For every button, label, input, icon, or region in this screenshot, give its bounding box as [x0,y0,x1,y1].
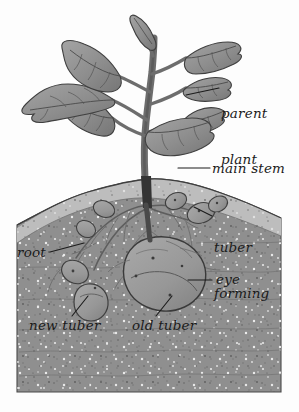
tuber-eye-dot [169,294,172,297]
new-tuber-2 [74,284,108,321]
label-root: root [17,245,46,260]
label-main-stem: main stem [212,161,285,176]
label-new-tuber: new tuber [29,318,101,333]
label-tuber-forming: tuber forming [214,210,269,316]
label-eye: eye [216,272,240,287]
potato-plant-diagram [0,0,299,412]
tuber-eye-dot [94,287,97,290]
tuber-eye-dot [151,256,154,259]
tuber-eye-dot [181,265,184,268]
label-tuber-forming-line1: tuber [214,240,269,255]
tuber-eye-dot [174,199,176,201]
tuber-eye-dot [72,270,75,273]
old-tuber [123,237,205,311]
tuber-eye-dot [135,275,138,278]
tuber-eye-dot [216,202,218,204]
label-old-tuber: old tuber [132,318,196,333]
label-tuber-forming-line2: forming [214,286,269,301]
label-parent-plant-line1: parent [221,106,267,121]
